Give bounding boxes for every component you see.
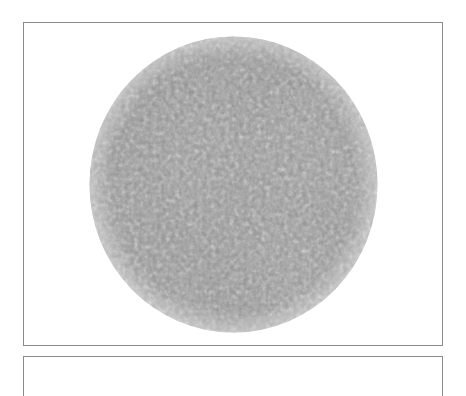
figure-panel-bottom (23, 356, 443, 396)
circular-texture-image (89, 36, 378, 333)
labyrinth-texture-graphic (89, 36, 378, 333)
